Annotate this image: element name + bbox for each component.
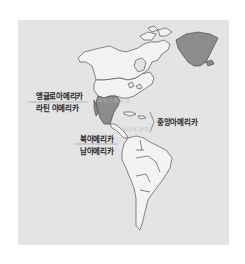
- canada-alaska: [78, 40, 170, 80]
- label-south-america: 남아메리카: [80, 147, 114, 156]
- label-anglo-america: 앵글로아메리카: [36, 92, 83, 101]
- label-central-america: 중앙아메리카: [157, 118, 197, 127]
- south-america: [122, 136, 172, 230]
- label-panama-canal: 파나마 운하: [122, 126, 149, 132]
- label-rio-grande: 리오그란데 강: [98, 97, 130, 103]
- americas-map: [0, 0, 245, 264]
- label-latin-america: 라틴 아메리카: [36, 104, 79, 113]
- label-north-america: 북아메리카: [80, 135, 114, 144]
